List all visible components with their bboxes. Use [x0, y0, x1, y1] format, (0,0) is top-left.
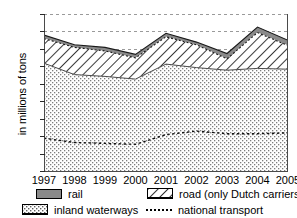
chart-figure: in millions of tons 90 80 70 60 50 40 30… [0, 0, 297, 218]
chart-svg [44, 14, 288, 172]
y-axis-ticks [39, 14, 49, 172]
legend-row-2: inland waterways national transport [0, 204, 297, 218]
legend-label-inland-waterways: inland waterways [54, 204, 138, 216]
road-swatch-icon [147, 189, 173, 199]
legend-item-inland-waterways: inland waterways [22, 204, 138, 216]
legend-label-national-transport: national transport [178, 204, 263, 216]
legend-label-road: road (only Dutch carriers) [179, 188, 297, 200]
legend-item-national-transport: national transport [146, 204, 263, 216]
legend-row-1: rail road (only Dutch carriers) [0, 188, 297, 202]
rail-swatch-icon [36, 189, 62, 199]
legend-item-road: road (only Dutch carriers) [147, 188, 297, 200]
legend-label-rail: rail [68, 188, 83, 200]
plot-area [44, 14, 288, 172]
inland-waterways-swatch-icon [22, 205, 48, 215]
legend-item-rail: rail [36, 188, 83, 200]
x-tick-label: 2005 [268, 174, 297, 186]
chart-legend: rail road (only Dutch carriers) inland w… [0, 188, 297, 218]
area-inland-waterways [44, 63, 288, 171]
national-transport-line-icon [146, 205, 172, 215]
